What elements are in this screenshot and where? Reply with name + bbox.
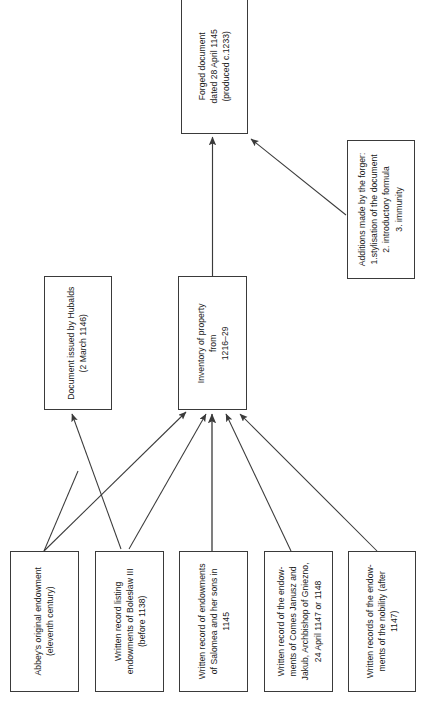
edge-src1-to-hubalds bbox=[44, 471, 78, 551]
node-record-janusz-jakub[interactable]: Written record of the endow- ments of Co… bbox=[264, 551, 333, 692]
node-document-hubalds-label: Document issued by Hubalds (2 March 1146… bbox=[66, 286, 90, 399]
edge-src2-to-inventory bbox=[129, 414, 206, 549]
node-forged-document-label: Forged document dated 28 April 1145 (pro… bbox=[196, 29, 233, 103]
edge-additions-to-forged bbox=[251, 139, 346, 215]
node-inventory-of-property[interactable]: Inventory of property from 1216–29 bbox=[178, 276, 247, 410]
diagram-canvas: Forged document dated 28 April 1145 (pro… bbox=[0, 0, 428, 712]
node-abbey-original-endowment-label: Abbey's original endowment (eleventh cen… bbox=[32, 567, 56, 676]
node-records-nobility-label: Written records of the endow- ments of t… bbox=[364, 564, 401, 678]
edge-src5-to-inventory bbox=[240, 414, 377, 551]
node-forger-additions[interactable]: Additions made by the forger: 1.stylisat… bbox=[347, 140, 415, 279]
edge-src4-to-inventory bbox=[226, 414, 291, 551]
node-records-nobility[interactable]: Written records of the endow- ments of t… bbox=[348, 551, 416, 692]
edge-src1-to-inventory bbox=[44, 412, 186, 551]
node-forged-document[interactable]: Forged document dated 28 April 1145 (pro… bbox=[181, 0, 248, 134]
node-record-salomea[interactable]: Written record of endowments of Salomea … bbox=[179, 551, 248, 692]
node-document-hubalds[interactable]: Document issued by Hubalds (2 March 1146… bbox=[44, 276, 112, 410]
edge-src2-to-hubalds bbox=[72, 414, 121, 549]
node-record-salomea-label: Written record of endowments of Salomea … bbox=[195, 564, 232, 680]
node-record-boleslaw-iii[interactable]: Written record listing endowments of Bol… bbox=[95, 551, 164, 692]
node-abbey-original-endowment[interactable]: Abbey's original endowment (eleventh cen… bbox=[10, 551, 79, 692]
node-record-janusz-jakub-label: Written record of the endow- ments of Co… bbox=[274, 562, 323, 680]
node-inventory-of-property-label: Inventory of property from 1216–29 bbox=[194, 303, 231, 383]
node-forger-additions-label: Additions made by the forger: 1.stylisat… bbox=[357, 153, 406, 267]
node-record-boleslaw-iii-label: Written record listing endowments of Bol… bbox=[111, 569, 148, 675]
